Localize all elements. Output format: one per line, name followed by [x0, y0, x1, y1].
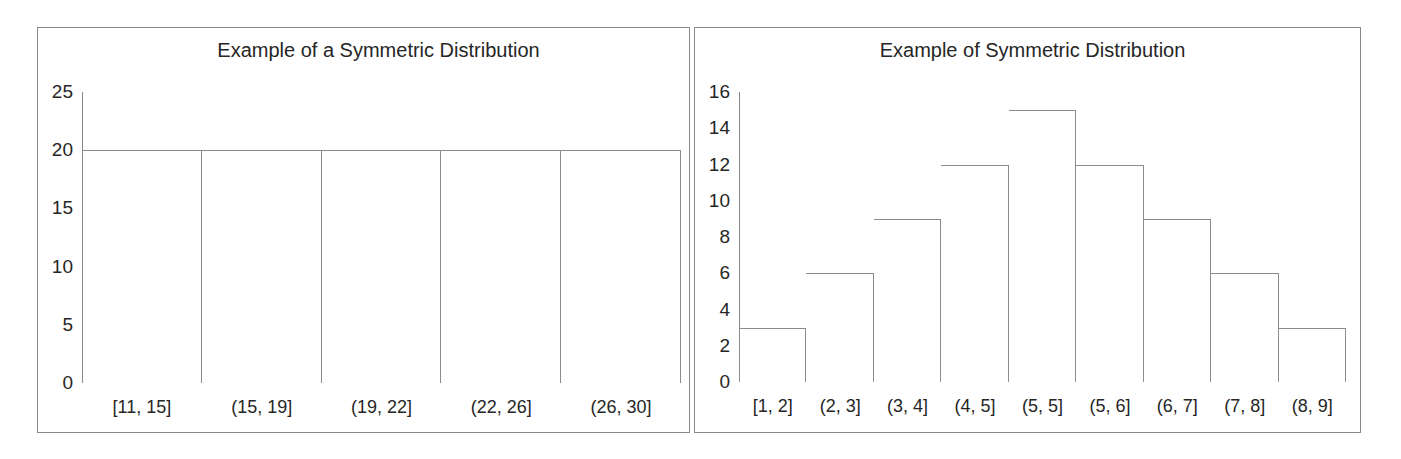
bar-cell — [1009, 92, 1076, 382]
x-tick-label: (5, 5] — [1009, 382, 1076, 417]
chart-panel-left: Example of a Symmetric Distribution 0510… — [37, 27, 690, 433]
x-axis-labels-left: [11, 15](15, 19](19, 22](22, 26](26, 30] — [82, 383, 681, 418]
y-tick-label: 16 — [709, 81, 730, 103]
histogram-bar — [941, 165, 1008, 383]
x-tick-label: (6, 7] — [1144, 382, 1211, 417]
y-tick-label: 0 — [62, 372, 73, 394]
y-tick-label: 5 — [62, 314, 73, 336]
x-tick-label: (26, 30] — [561, 383, 681, 418]
histogram-bar — [82, 150, 202, 383]
histogram-bar — [1144, 219, 1211, 382]
bar-cell — [1279, 92, 1346, 382]
histogram-bar — [1009, 110, 1076, 382]
figure-container: Example of a Symmetric Distribution 0510… — [0, 0, 1401, 459]
histogram-bar — [874, 219, 941, 382]
bars-group-left — [82, 92, 681, 383]
bar-cell — [82, 92, 202, 383]
bar-cell — [874, 92, 941, 382]
histogram-bar — [739, 328, 806, 382]
chart-panel-right: Example of Symmetric Distribution 024681… — [694, 27, 1361, 433]
y-axis-labels-right: 0246810121416 — [693, 92, 739, 382]
y-tick-label: 10 — [709, 190, 730, 212]
histogram-bar — [1076, 165, 1143, 383]
x-tick-label: (15, 19] — [202, 383, 322, 418]
x-tick-label: (7, 8] — [1211, 382, 1278, 417]
histogram-bar — [202, 150, 322, 383]
x-tick-label: [11, 15] — [82, 383, 202, 418]
x-tick-label: [1, 2] — [739, 382, 806, 417]
bar-cell — [322, 92, 442, 383]
bar-cell — [739, 92, 806, 382]
histogram-bar — [322, 150, 442, 383]
x-tick-label: (19, 22] — [322, 383, 442, 418]
symmetric-uniform-histogram: Example of a Symmetric Distribution 0510… — [38, 28, 689, 432]
x-tick-label: (5, 6] — [1076, 382, 1143, 417]
chart-title-right: Example of Symmetric Distribution — [695, 39, 1360, 62]
chart-title-left: Example of a Symmetric Distribution — [38, 39, 689, 62]
histogram-bar — [441, 150, 561, 383]
y-tick-label: 15 — [52, 197, 73, 219]
histogram-bar — [561, 150, 681, 383]
x-axis-labels-right: [1, 2](2, 3](3, 4](4, 5](5, 5](5, 6](6, … — [739, 382, 1346, 417]
y-tick-label: 2 — [719, 335, 730, 357]
plot-area-right: 0246810121416 [1, 2](2, 3](3, 4](4, 5](5… — [739, 92, 1346, 382]
bar-cell — [202, 92, 322, 383]
bar-cell — [806, 92, 873, 382]
y-tick-label: 14 — [709, 117, 730, 139]
y-tick-label: 25 — [52, 81, 73, 103]
bar-cell — [941, 92, 1008, 382]
bar-cell — [1211, 92, 1278, 382]
x-tick-label: (8, 9] — [1279, 382, 1346, 417]
y-tick-label: 6 — [719, 262, 730, 284]
y-tick-label: 8 — [719, 226, 730, 248]
y-tick-label: 12 — [709, 154, 730, 176]
y-tick-label: 0 — [719, 371, 730, 393]
x-tick-label: (4, 5] — [941, 382, 1008, 417]
x-tick-label: (3, 4] — [874, 382, 941, 417]
y-tick-label: 4 — [719, 299, 730, 321]
bar-cell — [441, 92, 561, 383]
symmetric-bell-histogram: Example of Symmetric Distribution 024681… — [695, 28, 1360, 432]
bars-group-right — [739, 92, 1346, 382]
x-tick-label: (22, 26] — [441, 383, 561, 418]
plot-area-left: 0510152025 [11, 15](15, 19](19, 22](22, … — [82, 92, 681, 383]
histogram-bar — [806, 273, 873, 382]
x-tick-label: (2, 3] — [806, 382, 873, 417]
y-axis-labels-left: 0510152025 — [36, 92, 82, 383]
histogram-bar — [1211, 273, 1278, 382]
histogram-bar — [1279, 328, 1346, 382]
y-tick-label: 10 — [52, 256, 73, 278]
bar-cell — [1076, 92, 1143, 382]
bar-cell — [1144, 92, 1211, 382]
y-tick-label: 20 — [52, 139, 73, 161]
bar-cell — [561, 92, 681, 383]
